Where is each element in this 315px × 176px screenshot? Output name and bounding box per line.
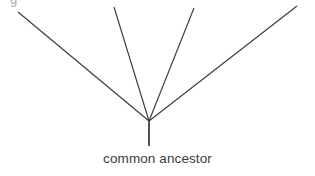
phylogenetic-tree-diagram: g common ancestor <box>0 0 315 176</box>
tree-branch-rightmost <box>149 6 297 121</box>
tree-branch-leftmost <box>18 12 149 121</box>
tree-branch-inner-left <box>114 7 149 121</box>
common-ancestor-label: common ancestor <box>0 150 315 167</box>
